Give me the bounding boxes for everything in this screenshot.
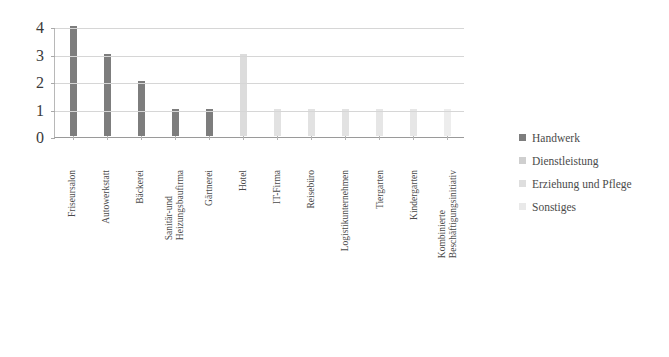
y-tick-label: 1 [36, 102, 44, 120]
legend-item[interactable]: Handwerk [519, 126, 669, 149]
bar[interactable] [104, 54, 111, 137]
bar-group [56, 28, 464, 136]
y-tick-label: 2 [36, 74, 44, 92]
y-tick-mark [51, 83, 55, 84]
legend-label: Handwerk [532, 132, 580, 144]
x-tick-label-line: Hotel [237, 170, 247, 191]
x-tick-label-line: IT-Firma [272, 170, 282, 204]
x-label-slot: Reisebüro [294, 170, 328, 335]
x-tick-label-line: Heizungsbaufirma [175, 170, 186, 240]
bar-slot [430, 28, 464, 136]
x-tick-mark [141, 136, 142, 140]
x-label-slot: Sanitär-undHeizungsbaufirma [158, 170, 192, 335]
bar-slot [226, 28, 260, 136]
x-tick-label: Logistikunternehmen [340, 170, 351, 251]
x-tick-mark [447, 136, 448, 140]
x-tick-mark [107, 136, 108, 140]
legend-swatch-icon [519, 134, 526, 141]
bar[interactable] [70, 26, 77, 136]
x-tick-label: Hotel [237, 170, 248, 191]
bar-slot [328, 28, 362, 136]
bar-slot [260, 28, 294, 136]
x-label-slot: Gärtnerei [192, 170, 226, 335]
x-tick-mark [209, 136, 210, 140]
y-axis-tick-labels: 01234 [26, 28, 48, 138]
y-tick-mark [51, 56, 55, 57]
x-tick-mark [413, 136, 414, 140]
gridline [55, 83, 464, 84]
x-tick-label-line: Kindergarten [408, 170, 418, 220]
gridline [55, 56, 464, 57]
bar-slot [362, 28, 396, 136]
bar-slot [56, 28, 90, 136]
x-tick-label-line: Sanitär-und [164, 196, 174, 240]
x-tick-label: Bäckerei [135, 170, 146, 204]
x-label-slot: Kindergarten [397, 170, 431, 335]
x-tick-label: Reisebüro [306, 170, 317, 209]
x-tick-mark [379, 136, 380, 140]
legend-item[interactable]: Sonstiges [519, 195, 669, 218]
bar-slot [90, 28, 124, 136]
x-tick-label: Autowerkstatt [101, 170, 112, 224]
bar[interactable] [206, 109, 213, 137]
x-tick-label-line: Kombinierte [437, 210, 447, 258]
bar-slot [192, 28, 226, 136]
x-axis-tick-labels: FriseursalonAutowerkstattBäckereiSanitär… [55, 170, 465, 335]
y-tick-mark [51, 138, 55, 139]
x-label-slot: Friseursalon [55, 170, 89, 335]
legend-label: Sonstiges [532, 201, 576, 213]
bar[interactable] [410, 109, 417, 137]
x-tick-mark [277, 136, 278, 140]
x-tick-label: Sanitär-undHeizungsbaufirma [164, 170, 186, 240]
bar[interactable] [138, 81, 145, 136]
x-tick-label-line: Friseursalon [67, 170, 77, 217]
y-tick-label: 0 [36, 129, 44, 147]
x-label-slot: Tiergarten [363, 170, 397, 335]
y-tick-mark [51, 28, 55, 29]
x-tick-label-line: Tiergarten [374, 170, 384, 209]
bar[interactable] [342, 109, 349, 137]
x-tick-label: Gärtnerei [203, 170, 214, 206]
bar[interactable] [274, 109, 281, 137]
legend-swatch-icon [519, 203, 526, 210]
y-tick-label: 3 [36, 47, 44, 65]
gridline [55, 111, 464, 112]
x-label-slot: Hotel [226, 170, 260, 335]
bar[interactable] [376, 109, 383, 137]
bar[interactable] [172, 109, 179, 137]
x-label-slot: IT-Firma [260, 170, 294, 335]
plot-area [54, 28, 464, 138]
x-tick-mark [175, 136, 176, 140]
x-tick-label-line: Beschäftigungsinitiativ [448, 170, 459, 258]
legend-swatch-icon [519, 180, 526, 187]
legend-item[interactable]: Dienstleistung [519, 149, 669, 172]
legend-label: Dienstleistung [532, 155, 598, 167]
chart-legend: HandwerkDienstleistungErziehung und Pfle… [519, 126, 669, 218]
gridline [55, 28, 464, 29]
bar[interactable] [444, 109, 451, 137]
legend-swatch-icon [519, 157, 526, 164]
bar[interactable] [240, 54, 247, 137]
legend-item[interactable]: Erziehung und Pflege [519, 172, 669, 195]
x-tick-mark [73, 136, 74, 140]
bar-slot [124, 28, 158, 136]
plot-wrapper: 01234 [26, 28, 466, 168]
x-label-slot: Logistikunternehmen [328, 170, 362, 335]
bar[interactable] [308, 109, 315, 137]
bar-slot [294, 28, 328, 136]
y-tick-mark [51, 111, 55, 112]
y-tick-label: 4 [36, 19, 44, 37]
x-label-slot: Bäckerei [123, 170, 157, 335]
x-label-slot: Autowerkstatt [89, 170, 123, 335]
x-tick-label: IT-Firma [272, 170, 283, 204]
bar-slot [396, 28, 430, 136]
legend-label: Erziehung und Pflege [532, 178, 632, 190]
x-label-slot: KombinierteBeschäftigungsinitiativ [431, 170, 465, 335]
x-tick-label-line: Gärtnerei [203, 170, 213, 206]
x-tick-label-line: Logistikunternehmen [340, 170, 350, 251]
x-tick-label: Friseursalon [67, 170, 78, 217]
bar-chart: 01234 FriseursalonAutowerkstattBäckereiS… [0, 0, 669, 357]
x-tick-label: Tiergarten [374, 170, 385, 209]
x-tick-label-line: Autowerkstatt [101, 170, 111, 224]
x-tick-label-line: Reisebüro [306, 170, 316, 209]
